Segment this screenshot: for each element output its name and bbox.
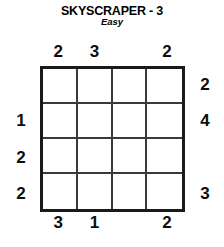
grid-cell[interactable]	[113, 104, 148, 139]
clue-top-3	[113, 34, 149, 60]
clue-left-2: 1	[4, 103, 38, 140]
clue-right-1: 2	[188, 66, 222, 103]
clue-bottom-1: 3	[40, 214, 76, 240]
clue-right-4: 3	[188, 176, 222, 213]
grid-cell[interactable]	[78, 174, 113, 209]
grid-cell[interactable]	[147, 104, 182, 139]
clue-bottom-3	[113, 214, 149, 240]
clue-top-2: 3	[76, 34, 112, 60]
grid-cell[interactable]	[147, 139, 182, 174]
grid-cell[interactable]	[78, 139, 113, 174]
grid-cell[interactable]	[43, 139, 78, 174]
grid-cell[interactable]	[147, 174, 182, 209]
clue-right-3	[188, 139, 222, 176]
clue-top-1: 2	[40, 34, 76, 60]
clues-bottom: 3 1 2	[40, 214, 185, 240]
clue-left-4: 2	[4, 176, 38, 213]
puzzle-page: SKYSCRAPER - 3 Easy 2 3 2 1 2 2	[0, 0, 224, 247]
clue-bottom-2: 1	[76, 214, 112, 240]
clue-bottom-4: 2	[149, 214, 185, 240]
grid-cell[interactable]	[113, 69, 148, 104]
grid-cell[interactable]	[147, 69, 182, 104]
clue-top-4: 2	[149, 34, 185, 60]
grid-cell[interactable]	[43, 104, 78, 139]
grid-cell[interactable]	[78, 69, 113, 104]
grid-cell[interactable]	[113, 174, 148, 209]
grid-cell[interactable]	[43, 174, 78, 209]
skyscraper-puzzle: 2 3 2 1 2 2	[0, 0, 224, 247]
grid-cell[interactable]	[78, 104, 113, 139]
clue-left-1	[4, 66, 38, 103]
clues-right: 2 4 3	[188, 66, 222, 212]
grid-cell[interactable]	[113, 139, 148, 174]
clues-top: 2 3 2	[40, 34, 185, 60]
clues-left: 1 2 2	[4, 66, 38, 212]
clue-right-2: 4	[188, 103, 222, 140]
clue-left-3: 2	[4, 139, 38, 176]
puzzle-grid[interactable]	[40, 66, 185, 212]
grid-cell[interactable]	[43, 69, 78, 104]
